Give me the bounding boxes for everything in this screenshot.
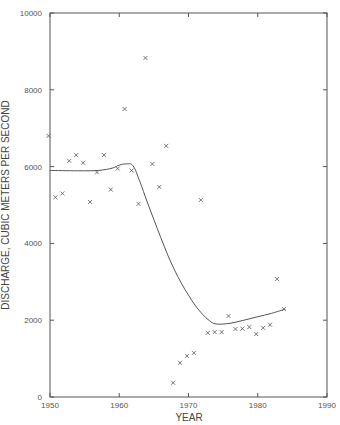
y-tick-label: 8000 bbox=[24, 86, 42, 95]
plot-frame bbox=[50, 13, 327, 397]
data-point-x-marker bbox=[240, 327, 244, 331]
y-tick-label: 6000 bbox=[24, 163, 42, 172]
data-point-x-marker bbox=[137, 202, 141, 206]
data-point-x-marker bbox=[192, 351, 196, 355]
y-tick-labels: 0200040006000800010000 bbox=[20, 9, 43, 402]
data-point-x-marker bbox=[178, 361, 182, 365]
data-point-x-marker bbox=[213, 330, 217, 334]
x-tick-label: 1970 bbox=[180, 401, 198, 410]
trend-line bbox=[50, 164, 285, 324]
data-point-x-marker bbox=[268, 323, 272, 327]
data-point-x-marker bbox=[227, 314, 231, 318]
discharge-chart: 19501960197019801990 0200040006000800010… bbox=[0, 0, 340, 425]
data-point-x-marker bbox=[116, 167, 120, 171]
axis-ticks bbox=[50, 13, 327, 397]
data-point-x-marker bbox=[60, 191, 64, 195]
y-tick-label: 0 bbox=[38, 393, 43, 402]
data-point-x-marker bbox=[150, 162, 154, 166]
data-point-x-marker bbox=[247, 325, 251, 329]
y-axis-title: DISCHARGE, CUBIC METERS PER SECOND bbox=[0, 100, 11, 309]
data-point-x-marker bbox=[164, 144, 168, 148]
y-tick-label: 10000 bbox=[20, 9, 43, 18]
data-point-x-marker bbox=[185, 354, 189, 358]
data-point-x-marker bbox=[67, 159, 71, 163]
y-tick-label: 4000 bbox=[24, 239, 42, 248]
x-axis-title: YEAR bbox=[175, 412, 202, 423]
data-point-x-marker bbox=[261, 326, 265, 330]
data-point-x-marker bbox=[254, 332, 258, 336]
data-point-x-marker bbox=[157, 185, 161, 189]
data-point-x-marker bbox=[123, 107, 127, 111]
data-point-x-marker bbox=[81, 161, 85, 165]
data-points bbox=[47, 56, 286, 385]
trend-curve bbox=[50, 164, 285, 324]
x-tick-label: 1990 bbox=[318, 401, 336, 410]
data-point-x-marker bbox=[206, 331, 210, 335]
data-point-x-marker bbox=[109, 188, 113, 192]
x-tick-label: 1980 bbox=[249, 401, 267, 410]
x-tick-label: 1950 bbox=[41, 401, 59, 410]
data-point-x-marker bbox=[275, 277, 279, 281]
x-tick-labels: 19501960197019801990 bbox=[41, 401, 336, 410]
plot-border bbox=[50, 13, 327, 397]
data-point-x-marker bbox=[88, 200, 92, 204]
data-point-x-marker bbox=[53, 195, 57, 199]
data-point-x-marker bbox=[199, 198, 203, 202]
data-point-x-marker bbox=[74, 153, 78, 157]
data-point-x-marker bbox=[102, 153, 106, 157]
y-tick-label: 2000 bbox=[24, 316, 42, 325]
x-tick-label: 1960 bbox=[110, 401, 128, 410]
data-point-x-marker bbox=[233, 327, 237, 331]
data-point-x-marker bbox=[220, 330, 224, 334]
data-point-x-marker bbox=[143, 56, 147, 60]
data-point-x-marker bbox=[130, 168, 134, 172]
data-point-x-marker bbox=[171, 381, 175, 385]
